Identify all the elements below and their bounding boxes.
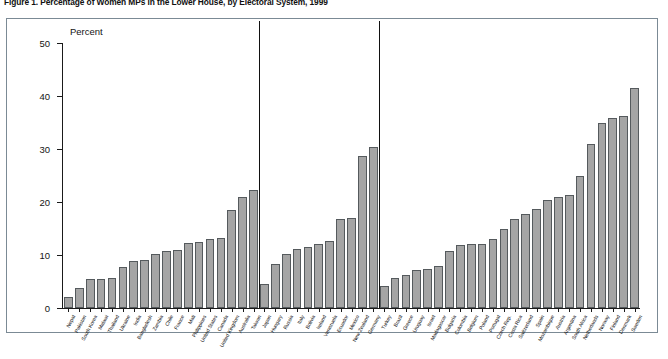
bar: [402, 275, 411, 308]
bar: [206, 239, 215, 308]
bar: [500, 229, 509, 309]
x-tick: [177, 308, 178, 312]
bar: [380, 286, 389, 308]
bar: [227, 210, 236, 308]
x-tick: [210, 308, 211, 312]
bar: [75, 288, 84, 308]
x-tick: [493, 308, 494, 312]
y-tick-label: 30: [39, 144, 50, 155]
x-tick: [134, 308, 135, 312]
bar: [358, 156, 367, 308]
x-tick: [591, 308, 592, 312]
y-tick-label: 0: [45, 303, 50, 314]
x-tick: [537, 308, 538, 312]
bar: [576, 176, 585, 309]
x-tick: [341, 308, 342, 312]
x-tick: [624, 308, 625, 312]
bar: [97, 279, 106, 308]
y-axis-unit-label: Percent: [70, 26, 103, 37]
x-tick-label: Turkey: [380, 314, 392, 330]
x-tick: [308, 308, 309, 312]
x-tick: [580, 308, 581, 312]
x-tick: [439, 308, 440, 312]
group-divider: [379, 21, 380, 308]
x-tick: [275, 308, 276, 312]
bar: [282, 254, 291, 308]
x-tick: [330, 308, 331, 312]
y-tick: 40: [57, 96, 62, 97]
x-tick: [101, 308, 102, 312]
bar: [129, 261, 138, 308]
x-tick: [188, 308, 189, 312]
bar: [238, 197, 247, 308]
x-tick: [123, 308, 124, 312]
y-tick-label: 20: [39, 197, 50, 208]
x-tick: [613, 308, 614, 312]
y-tick-label: 50: [39, 38, 50, 49]
bar: [478, 244, 487, 308]
x-tick: [428, 308, 429, 312]
bar: [598, 123, 607, 309]
bar: [184, 243, 193, 308]
bar: [64, 297, 73, 308]
bar: [325, 241, 334, 308]
bar: [434, 266, 443, 308]
x-tick: [482, 308, 483, 312]
x-tick: [449, 308, 450, 312]
y-tick: 20: [57, 202, 62, 203]
x-tick: [199, 308, 200, 312]
y-tick-label: 40: [39, 91, 50, 102]
x-tick: [264, 308, 265, 312]
x-tick: [471, 308, 472, 312]
x-tick: [286, 308, 287, 312]
bar: [608, 118, 617, 308]
x-tick: [68, 308, 69, 312]
bar: [140, 260, 149, 308]
x-tick: [384, 308, 385, 312]
bar: [336, 219, 345, 308]
bar: [217, 238, 226, 308]
bar: [151, 254, 160, 308]
bar: [271, 264, 280, 308]
x-tick: [373, 308, 374, 312]
x-tick: [417, 308, 418, 312]
bar: [445, 251, 454, 308]
bar: [554, 197, 563, 308]
x-tick: [504, 308, 505, 312]
x-tick: [79, 308, 80, 312]
bar: [173, 250, 182, 308]
x-tick-label: India: [132, 314, 142, 326]
x-tick: [395, 308, 396, 312]
x-tick-label: Russia: [282, 314, 294, 330]
x-tick: [156, 308, 157, 312]
bar: [108, 278, 117, 308]
x-tick: [362, 308, 363, 312]
bar: [456, 245, 465, 308]
bar: [293, 249, 302, 308]
bar: [314, 244, 323, 308]
bar: [369, 147, 378, 308]
bar: [304, 247, 313, 308]
y-tick: 30: [57, 149, 62, 150]
x-tick: [558, 308, 559, 312]
x-tick: [460, 308, 461, 312]
x-tick: [232, 308, 233, 312]
y-tick: 50: [57, 43, 62, 44]
x-tick: [602, 308, 603, 312]
x-tick: [319, 308, 320, 312]
bar: [249, 190, 258, 308]
bar: [347, 218, 356, 308]
x-tick: [297, 308, 298, 312]
bar: [521, 214, 530, 308]
x-tick-label: Israel: [425, 314, 436, 328]
x-tick-label: France: [173, 314, 186, 331]
bar: [565, 195, 574, 308]
x-tick: [515, 308, 516, 312]
chart-frame: Percent 01020304050 NepalPakistanSouth K…: [6, 18, 658, 333]
plot-area: Percent 01020304050 NepalPakistanSouth K…: [62, 43, 640, 308]
x-tick-label: Italy: [296, 314, 306, 325]
bar: [619, 116, 628, 308]
x-tick: [90, 308, 91, 312]
bar: [162, 251, 171, 308]
bar: [532, 209, 541, 308]
